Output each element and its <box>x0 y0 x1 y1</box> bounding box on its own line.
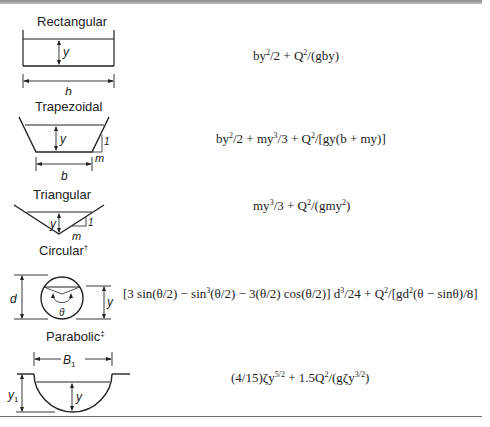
depth-label: y <box>49 217 57 231</box>
depth-label: y <box>59 132 67 146</box>
angle-label: θ <box>59 307 65 318</box>
trapezoidal-channel-diagram: y 1 m b <box>0 95 130 190</box>
width-label: b <box>65 85 72 95</box>
formula-triangular: my3/3 + Q2/(gmy2) <box>253 198 350 214</box>
table-row-trapezoidal: Trapezoidal y 1 m b by2/2 + my3/3 + Q2/[… <box>0 95 490 185</box>
formula-circular: [3 sin(θ/2) − sin3(θ/2) − 3(θ/2) cos(θ/2… <box>123 286 478 302</box>
diameter-label: d <box>10 292 17 306</box>
formula-parabolic: (4/15)ζy5/2 + 1.5Q2/(gζy3/2) <box>231 370 369 386</box>
slope-run-label: m <box>95 152 104 164</box>
full-depth-label: y1 <box>7 388 19 404</box>
depth-label: y <box>106 295 114 309</box>
triangular-channel-diagram: y 1 m <box>0 185 130 245</box>
parabolic-channel-diagram: B1 y1 y <box>0 322 140 417</box>
formula-trapezoidal: by2/2 + my3/3 + Q2/[gy(b + my)] <box>216 131 386 147</box>
table-row-circular: Circular† d θ y [3 sin(θ/2) − sin3(θ/2) … <box>0 240 490 322</box>
table-row-triangular: Triangular y 1 m my3/3 + Q2/(gmy2) <box>0 185 490 240</box>
width-label: b <box>61 169 68 183</box>
slope-rise-label: 1 <box>88 217 94 228</box>
formula-rectangular: by2/2 + Q2/(gby) <box>253 48 339 64</box>
table-row-parabolic: Parabolic‡ B1 y1 y (4/15)ζy5/2 + 1.5Q2/(… <box>0 322 490 417</box>
table-row-rectangular: Rectangular y b by2/2 + Q2/(gby) <box>0 0 490 95</box>
depth-label: y <box>62 45 70 59</box>
rectangular-channel-diagram: y b <box>0 0 130 95</box>
slope-rise-label: 1 <box>104 136 110 147</box>
circular-channel-diagram: d θ y <box>0 240 130 322</box>
top-width-label: B1 <box>63 353 76 369</box>
depth-label: y <box>75 390 83 404</box>
bottom-rule <box>0 416 482 417</box>
